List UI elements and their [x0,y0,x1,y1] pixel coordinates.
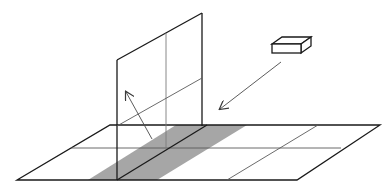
light-source-box [272,37,311,53]
reflected-ray-arrow [126,92,152,139]
diagram-canvas: Light source projecting onto vertical pa… [0,0,390,189]
diagram-svg [0,0,390,189]
shaded-strip [88,125,247,180]
incident-ray-arrow [220,62,281,109]
panel-top-edge [117,13,202,60]
panel-mid-diagonal [117,78,202,126]
box-front-face [272,44,301,53]
floor-divider-diagonal [227,125,318,180]
